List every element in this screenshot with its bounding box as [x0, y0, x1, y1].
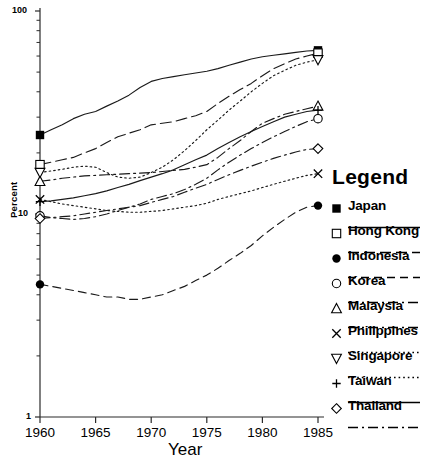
legend-marker-shape: [332, 379, 340, 387]
legend-item-hong-kong[interactable]: Hong Kong: [330, 223, 422, 248]
legend-item-korea[interactable]: Korea: [330, 273, 422, 298]
x-tick-label: 1975: [177, 425, 237, 440]
chart-container: Percent 100101 196019651970197519801985 …: [0, 0, 422, 472]
legend-marker-shape: [332, 304, 342, 313]
legend-marker-shape: [332, 254, 340, 262]
legend-item-label: Philippines: [348, 323, 418, 338]
filled-circle-icon: [330, 251, 343, 264]
series-japan: [36, 46, 322, 139]
series-line: [40, 174, 318, 213]
open-triangle-up-icon: [330, 301, 343, 314]
legend-linestyle-sample: [348, 215, 420, 217]
legend-item-label: Thailand: [348, 398, 402, 413]
series-marker-start: [36, 131, 44, 139]
legend-linestyle-sample: [348, 265, 420, 267]
y-axis-title-wrap: Percent: [8, 138, 28, 218]
x-tick-label: 1970: [121, 425, 181, 440]
series-marker-start: [36, 197, 44, 205]
series-indonesia: [36, 201, 322, 299]
series-hong-kong: [36, 49, 322, 169]
y-tick-label: 10: [18, 208, 28, 218]
legend-marker-shape: [332, 229, 340, 237]
open-circle-icon: [330, 276, 343, 289]
series-marker-end: [313, 56, 323, 65]
series-line: [40, 50, 318, 135]
legend-item-label: Korea: [348, 273, 385, 288]
filled-square-icon: [330, 201, 343, 214]
legend-item-label: Taiwan: [348, 373, 392, 388]
x-tick-label: 1985: [288, 425, 348, 440]
series-line: [40, 206, 318, 300]
legend: Legend JapanHong KongIndonesiaKoreaMalay…: [330, 165, 422, 423]
x-axis-ticks: [40, 417, 318, 423]
open-square-icon: [330, 226, 343, 239]
y-tick-label: 1: [26, 411, 31, 421]
series-marker-start: [36, 280, 44, 288]
legend-marker-shape: [332, 354, 342, 363]
x-tick-label: 1980: [232, 425, 292, 440]
legend-item-malaysia[interactable]: Malaysia: [330, 298, 422, 323]
legend-linestyle-sample: [348, 365, 420, 367]
legend-item-taiwan[interactable]: Taiwan: [330, 373, 422, 398]
legend-item-label: Malaysia: [348, 298, 403, 313]
legend-linestyle-sample: [348, 240, 420, 242]
legend-marker-shape: [332, 279, 340, 287]
legend-linestyle-sample: [348, 415, 420, 417]
legend-marker-shape: [332, 404, 342, 414]
legend-item-indonesia[interactable]: Indonesia: [330, 248, 422, 273]
legend-linestyle-sample: [348, 315, 420, 317]
legend-item-japan[interactable]: Japan: [330, 198, 422, 223]
series-line: [40, 106, 318, 181]
x-tick-label: 1965: [66, 425, 126, 440]
legend-item-label: Indonesia: [348, 248, 409, 263]
series-malaysia: [35, 101, 323, 185]
cross-icon: [330, 326, 343, 339]
series-marker-start: [35, 168, 45, 177]
series-line: [40, 60, 318, 178]
x-tick-label: 1960: [10, 425, 70, 440]
plus-icon: [330, 376, 343, 389]
series-philippines: [36, 169, 322, 212]
legend-linestyle-sample: [348, 290, 420, 292]
y-axis-title: Percent: [8, 138, 19, 218]
legend-linestyle-sample: [348, 390, 420, 392]
legend-marker-shape: [332, 329, 340, 337]
open-triangle-down-icon: [330, 351, 343, 364]
legend-linestyle-sample: [348, 340, 420, 342]
legend-marker-shape: [332, 204, 340, 212]
series-line: [40, 53, 318, 165]
series-marker-start: [36, 160, 44, 168]
series-marker-end: [314, 114, 322, 122]
series-line: [40, 119, 318, 220]
series-marker-end: [314, 201, 322, 209]
open-diamond-icon: [330, 401, 343, 414]
legend-title: Legend: [332, 165, 422, 189]
x-axis-title: Year: [168, 440, 202, 460]
legend-item-philippines[interactable]: Philippines: [330, 323, 422, 348]
legend-item-singapore[interactable]: Singapore: [330, 348, 422, 373]
legend-item-label: Japan: [348, 198, 386, 213]
series-marker-end: [313, 144, 323, 154]
legend-item-thailand[interactable]: Thailand: [330, 398, 422, 423]
legend-item-label: Singapore: [348, 348, 412, 363]
y-tick-label: 100: [12, 5, 27, 15]
legend-item-label: Hong Kong: [348, 223, 419, 238]
